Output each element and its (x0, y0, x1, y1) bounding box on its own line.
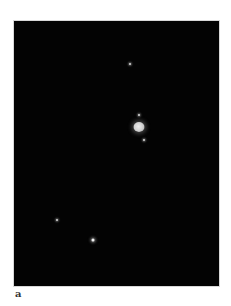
night-sky-image (14, 21, 219, 286)
star-top (129, 63, 131, 65)
star-bottom (92, 239, 95, 242)
panel-label: a (15, 289, 21, 299)
star-lower-left (56, 219, 58, 221)
moon-below-planet (143, 139, 145, 141)
moon-above-planet (138, 114, 140, 116)
planet (134, 122, 145, 132)
